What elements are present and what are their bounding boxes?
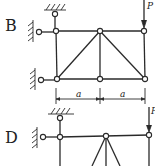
dimension-label-right: a: [120, 89, 125, 99]
truss-figure: B: [0, 0, 155, 166]
truss-b-members: [56, 31, 145, 79]
option-d: D: [5, 106, 155, 166]
option-b: B: [5, 0, 154, 104]
option-d-label: D: [5, 128, 18, 147]
dimension-lines: [56, 88, 145, 104]
ceiling-support-d-icon: [48, 108, 74, 138]
ceiling-support-icon: [44, 4, 66, 31]
option-b-label: B: [5, 16, 17, 35]
wall-support-top-icon: [28, 20, 56, 42]
truss-d-joints: [57, 132, 151, 139]
load-label-d: P: [150, 106, 155, 116]
wall-support-bottom-icon: [30, 68, 57, 90]
load-arrow-b-icon: [142, 0, 147, 28]
wall-support-d-icon: [32, 127, 60, 148]
dimension-label-left: a: [76, 89, 81, 99]
truss-d-members: [60, 135, 149, 166]
load-label-b: P: [146, 1, 154, 11]
